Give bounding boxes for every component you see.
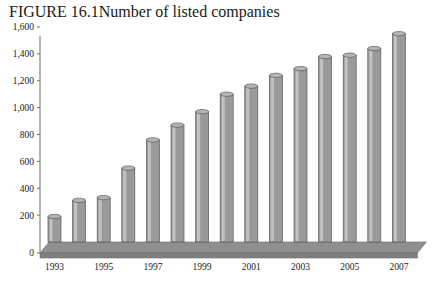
bar: [97, 195, 110, 242]
x-tick-label: 1999: [193, 262, 212, 272]
bar: [171, 123, 184, 242]
chart-plot-area: 02004006008001,0001,2001,4001,600 199319…: [0, 18, 434, 285]
bar: [146, 138, 159, 242]
y-tick-label: 1,000: [13, 103, 35, 113]
x-tick-label: 2001: [242, 262, 261, 272]
bar: [368, 46, 381, 242]
y-tick-label: 400: [20, 184, 35, 194]
bar: [294, 66, 307, 242]
y-tick-label: 800: [20, 130, 35, 140]
bar: [73, 198, 86, 242]
y-axis: [37, 27, 40, 253]
bar: [343, 53, 356, 242]
y-tick-label: 200: [20, 211, 35, 221]
x-tick-label: 1995: [94, 262, 113, 272]
y-tick-label: 1,200: [13, 76, 35, 86]
y-tick-label: 1,600: [13, 22, 35, 32]
y-tick-label: 1,400: [13, 49, 35, 59]
figure-header: FIGURE 16.1 Number of listed companies: [9, 3, 280, 17]
bar: [220, 92, 233, 242]
x-axis-tick-labels: 19931995199719992001200320052007: [45, 262, 409, 272]
bar: [245, 84, 258, 242]
bar: [319, 54, 332, 242]
bar: [269, 73, 282, 242]
y-axis-tick-labels: 02004006008001,0001,2001,4001,600: [13, 22, 35, 258]
chart-floor: [40, 242, 426, 258]
bar: [48, 214, 61, 242]
chart-bars-group: [48, 32, 405, 242]
y-tick-label: 600: [20, 157, 35, 167]
bar: [196, 109, 209, 242]
x-tick-label: 2007: [389, 262, 408, 272]
x-tick-label: 1997: [143, 262, 162, 272]
y-tick-label: 0: [29, 248, 34, 258]
bar-chart: 02004006008001,0001,2001,4001,600 199319…: [0, 18, 434, 285]
x-tick-label: 1993: [45, 262, 64, 272]
x-tick-label: 2003: [291, 262, 310, 272]
x-tick-label: 2005: [340, 262, 359, 272]
bar: [122, 166, 135, 242]
bar: [392, 32, 405, 242]
